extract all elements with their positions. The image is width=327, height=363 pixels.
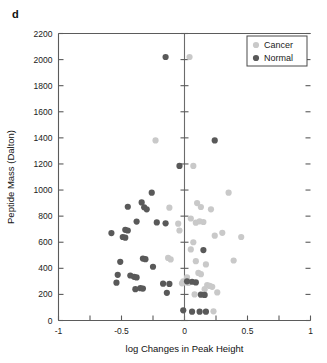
data-point-normal (166, 281, 172, 287)
y-axis-title: Peptide Mass (Dalton) (5, 130, 16, 224)
x-tick-label: -0.5 (114, 326, 129, 336)
x-tick-label: 0.5 (242, 326, 254, 336)
data-point-normal (108, 230, 114, 236)
data-point-cancer (191, 291, 197, 297)
data-point-normal (163, 220, 169, 226)
y-tick-label: 1600 (34, 107, 53, 117)
data-point-cancer (193, 258, 199, 264)
y-tick-label: 2000 (34, 55, 53, 65)
data-point-cancer (226, 190, 232, 196)
data-point-normal (113, 280, 119, 286)
data-point-cancer (202, 286, 208, 292)
data-point-normal (117, 259, 123, 265)
data-point-cancer (190, 239, 196, 245)
y-tick-label: 1200 (34, 159, 53, 169)
data-point-normal (149, 190, 155, 196)
data-point-normal (200, 247, 206, 253)
data-point-cancer (188, 215, 194, 221)
data-point-normal (197, 309, 203, 315)
data-point-cancer (166, 205, 172, 211)
data-point-cancer (193, 220, 199, 226)
data-point-normal (144, 206, 150, 212)
data-point-normal (134, 274, 140, 280)
data-point-cancer (212, 233, 218, 239)
data-point-normal (176, 163, 182, 169)
x-tick-label: -1 (55, 326, 63, 336)
scatter-plot: 0200400600800100012001400160018002000220… (0, 0, 327, 363)
data-point-cancer (210, 308, 216, 314)
y-tick-label: 1400 (34, 133, 53, 143)
y-tick-label: 2200 (34, 29, 53, 39)
data-point-normal (212, 137, 218, 143)
data-point-cancer (168, 256, 174, 262)
data-point-cancer (238, 234, 244, 240)
y-tick-label: 200 (38, 289, 52, 299)
data-point-normal (202, 292, 208, 298)
data-point-normal (115, 272, 121, 278)
x-tick-label: 0 (182, 326, 187, 336)
data-point-cancer (231, 257, 237, 263)
data-point-cancer (214, 289, 220, 295)
legend-dot-normal (253, 55, 259, 61)
x-tick-label: 1 (308, 326, 313, 336)
data-point-cancer (190, 163, 196, 169)
data-point-cancer (188, 246, 194, 252)
x-axis-title: log Changes in Peak Height (126, 343, 244, 354)
data-point-normal (150, 264, 156, 270)
data-point-normal (163, 54, 169, 60)
data-point-cancer (200, 219, 206, 225)
axes-group: 0200400600800100012001400160018002000220… (34, 29, 314, 336)
data-point-normal (180, 307, 186, 313)
data-point-cancer (186, 54, 192, 60)
data-point-cancer (152, 137, 158, 143)
chart-legend: CancerNormal (247, 36, 307, 66)
data-point-normal (193, 279, 199, 285)
legend-label-normal: Normal (264, 53, 293, 63)
data-point-cancer (203, 261, 209, 267)
data-point-normal (203, 309, 209, 315)
data-point-cancer (198, 204, 204, 210)
data-point-normal (122, 235, 128, 241)
data-point-normal (134, 219, 140, 225)
data-point-normal (154, 219, 160, 225)
y-tick-label: 0 (48, 316, 53, 326)
data-point-cancer (175, 221, 181, 227)
data-points-group (108, 54, 244, 315)
data-point-cancer (208, 206, 214, 212)
y-tick-label: 600 (38, 237, 52, 247)
data-point-normal (140, 285, 146, 291)
data-point-cancer (176, 227, 182, 233)
data-point-normal (125, 204, 131, 210)
figure-panel-d: d 02004006008001000120014001600180020002… (0, 0, 327, 363)
data-point-cancer (198, 271, 204, 277)
data-point-normal (189, 309, 195, 315)
y-tick-label: 400 (38, 263, 52, 273)
y-tick-label: 1000 (34, 185, 53, 195)
data-point-normal (164, 290, 170, 296)
data-point-normal (142, 256, 148, 262)
y-tick-label: 800 (38, 211, 52, 221)
data-point-normal (160, 281, 166, 287)
data-point-normal (125, 227, 131, 233)
legend-dot-cancer (253, 42, 259, 48)
y-tick-label: 1800 (34, 81, 53, 91)
data-point-cancer (209, 284, 215, 290)
legend-label-cancer: Cancer (264, 40, 293, 50)
data-point-cancer (219, 230, 225, 236)
